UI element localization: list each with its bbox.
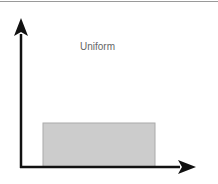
distribution-label: Uniform [80, 41, 115, 52]
uniform-density-box [43, 123, 155, 167]
x-axis-arrow-icon [178, 160, 196, 174]
y-axis-arrow-icon [14, 18, 28, 36]
uniform-distribution-diagram [0, 0, 218, 184]
